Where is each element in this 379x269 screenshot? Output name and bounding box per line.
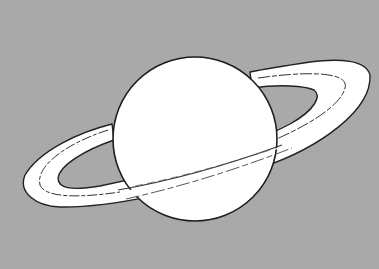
illustration-canvas	[0, 0, 379, 269]
saturn-illustration	[0, 0, 379, 269]
